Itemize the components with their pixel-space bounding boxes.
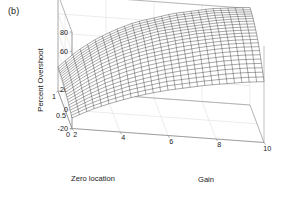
y-tick-label: 0	[66, 130, 70, 139]
x-tick-label: 2	[73, 130, 77, 139]
z-tick-label: 60	[60, 47, 68, 56]
x-tick-label: 4	[121, 133, 125, 142]
x-tick-label: 6	[169, 137, 173, 146]
y-tick-label: 0.5	[56, 111, 66, 120]
z-axis-title: Percent Overshoot	[36, 47, 45, 111]
y-axis-title: Zero location	[71, 174, 115, 183]
y-tick-label: 1	[52, 92, 56, 101]
x-tick-label: 8	[217, 140, 221, 149]
x-axis-title: Gain	[198, 175, 214, 184]
mesh-surface	[58, 8, 264, 118]
x-tick-label: 10	[263, 144, 271, 153]
surface-plot-3d: -2002040608024681000.51 Percent Overshoo…	[0, 0, 290, 198]
z-tick-label: 80	[60, 28, 68, 37]
